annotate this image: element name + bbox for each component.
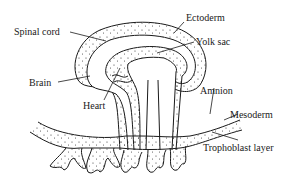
label-amnion: Amnion [200, 86, 233, 96]
label-brain: Brain [29, 78, 51, 88]
label-mesoderm: Mesoderm [230, 110, 273, 120]
label-ectoderm: Ectoderm [186, 13, 225, 23]
label-yolk-sac: Yolk sac [196, 37, 230, 47]
embryo-diagram: Spinal cord Ectoderm Yolk sac Brain Hear… [0, 0, 296, 182]
label-spinal-cord: Spinal cord [14, 27, 60, 37]
chorionic-villi [50, 146, 186, 173]
label-heart: Heart [83, 101, 105, 111]
label-trophoblast-layer: Trophoblast layer [203, 143, 273, 153]
